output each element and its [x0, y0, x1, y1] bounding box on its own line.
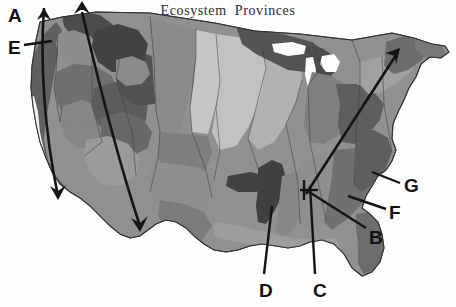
figure-title: Ecosystem Provinces [0, 3, 456, 19]
callout-label-e: E [8, 38, 21, 57]
province-atlantic-coastal-plain [354, 130, 392, 192]
callout-label-f: F [389, 203, 401, 222]
callout-label-a: A [8, 6, 22, 25]
callout-label-c: C [313, 281, 327, 300]
map-landmass [22, 12, 449, 276]
us-ecosystem-provinces-map [0, 0, 456, 307]
callout-label-d: D [259, 281, 273, 300]
callout-label-b: B [369, 228, 383, 247]
callout-label-g: G [404, 176, 419, 195]
ecosystem-provinces-figure: Ecosystem Provinces A E G F B D C [0, 0, 456, 307]
